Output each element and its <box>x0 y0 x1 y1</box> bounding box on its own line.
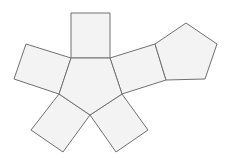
pentagonal-prism-net-diagram <box>0 0 227 158</box>
top-square-face <box>71 13 110 58</box>
right-pentagon-face <box>155 23 217 80</box>
